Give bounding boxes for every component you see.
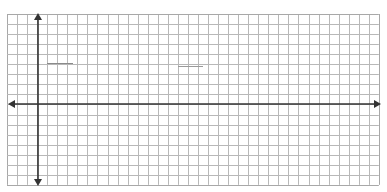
coordinate-plane bbox=[0, 0, 387, 192]
axes bbox=[8, 13, 381, 186]
arrow-left-icon bbox=[8, 100, 15, 108]
grid-lines bbox=[7, 14, 380, 186]
arrow-down-icon bbox=[34, 179, 42, 186]
